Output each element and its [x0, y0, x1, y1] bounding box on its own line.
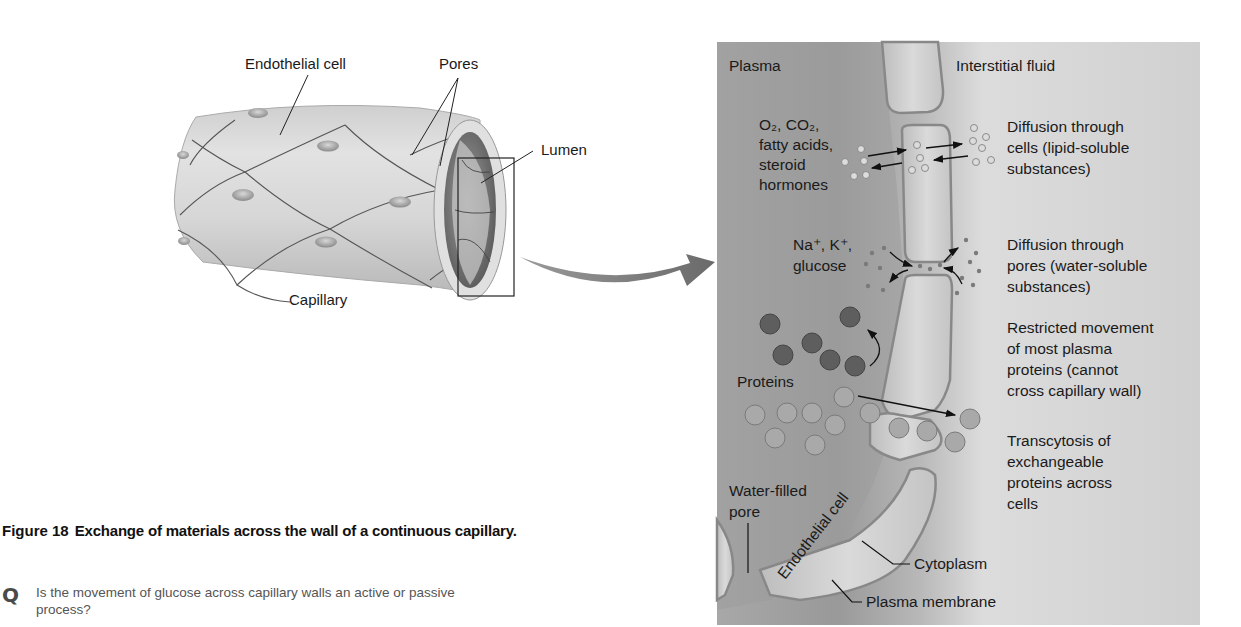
- figure-title: Exchange of materials across the wall of…: [75, 522, 517, 539]
- label-diffusion-cells-3: substances): [1007, 160, 1091, 177]
- question-icon: Q: [2, 584, 36, 606]
- label-transcytosis-2: exchangeable: [1007, 453, 1104, 470]
- label-lumen: Lumen: [541, 141, 587, 158]
- label-diffusion-cells-1: Diffusion through: [1007, 118, 1124, 135]
- label-diffusion-cells-2: cells (lipid-soluble: [1007, 139, 1129, 156]
- label-restricted-1: Restricted movement: [1007, 319, 1154, 336]
- label-interstitial-fluid: Interstitial fluid: [956, 57, 1055, 74]
- figure-number: Figure 18: [2, 522, 69, 539]
- label-capillary: Capillary: [289, 291, 348, 308]
- label-diffusion-pores-3: substances): [1007, 278, 1091, 295]
- label-diffusion-pores-1: Diffusion through: [1007, 236, 1124, 253]
- capillary-tube: [174, 105, 514, 302]
- label-restricted-3: proteins (cannot: [1007, 361, 1119, 378]
- label-water-filled-pore-2: pore: [729, 503, 760, 520]
- label-transcytosis-1: Transcytosis of: [1007, 432, 1111, 449]
- label-plasma: Plasma: [729, 57, 781, 74]
- question-text: Is the movement of glucose across capill…: [36, 584, 466, 618]
- label-water-filled-pore-1: Water-filled: [729, 482, 807, 499]
- label-proteins: Proteins: [737, 373, 794, 390]
- magnify-arrow-icon: [520, 254, 715, 286]
- label-diffusion-pores-2: pores (water-soluble: [1007, 257, 1147, 274]
- figure-caption: Figure 18Exchange of materials across th…: [2, 521, 562, 541]
- label-lipid-substances-4: hormones: [759, 176, 828, 193]
- label-restricted-2: of most plasma: [1007, 340, 1112, 357]
- label-transcytosis-4: cells: [1007, 495, 1038, 512]
- review-question: Q Is the movement of glucose across capi…: [2, 584, 562, 618]
- label-water-soluble-1: Na⁺, K⁺,: [793, 236, 852, 253]
- label-endothelial-cell: Endothelial cell: [245, 55, 346, 72]
- label-transcytosis-3: proteins across: [1007, 474, 1112, 491]
- label-water-soluble-2: glucose: [793, 257, 846, 274]
- label-cytoplasm: Cytoplasm: [914, 555, 987, 572]
- label-lipid-substances-1: O₂, CO₂,: [759, 116, 819, 133]
- label-lipid-substances-2: fatty acids,: [759, 136, 833, 153]
- label-pores: Pores: [439, 55, 478, 72]
- label-plasma-membrane: Plasma membrane: [866, 593, 996, 610]
- label-restricted-4: cross capillary wall): [1007, 382, 1141, 399]
- label-lipid-substances-3: steroid: [759, 156, 806, 173]
